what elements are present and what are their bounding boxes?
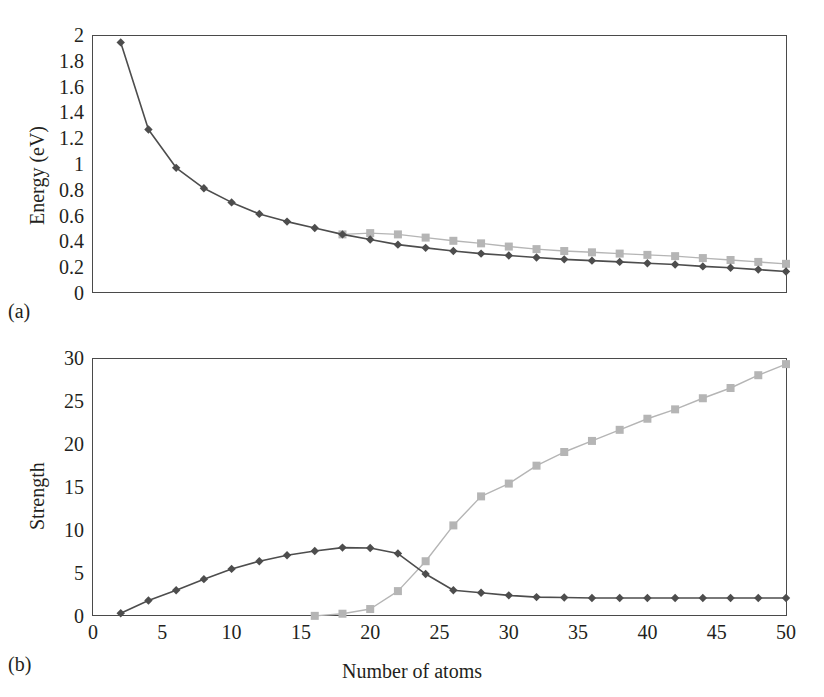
- data-point-diamond: [311, 224, 319, 232]
- data-point-diamond: [421, 244, 429, 252]
- y-axis-label-a: Energy (eV): [26, 126, 49, 225]
- data-point-diamond: [754, 594, 762, 602]
- chart-svg-b: [93, 359, 786, 615]
- data-point-diamond: [477, 249, 485, 257]
- y-tick-label: 25: [64, 391, 84, 411]
- data-point-square: [671, 252, 679, 260]
- data-point-square: [422, 557, 430, 565]
- data-point-square: [643, 251, 651, 259]
- y-axis-label-b: Strength: [26, 462, 49, 530]
- y-tick-label: 10: [64, 520, 84, 540]
- data-point-diamond: [227, 565, 235, 573]
- data-point-diamond: [615, 594, 623, 602]
- y-tick-label: 1.6: [59, 77, 84, 97]
- data-point-diamond: [449, 247, 457, 255]
- data-point-square: [588, 248, 596, 256]
- data-point-diamond: [671, 594, 679, 602]
- data-point-diamond: [394, 240, 402, 248]
- series-line-dark-diamond: [121, 548, 786, 614]
- x-tick-label: 5: [157, 622, 167, 642]
- data-point-square: [366, 605, 374, 613]
- data-point-diamond: [117, 609, 125, 617]
- panel-tag-b: (b): [8, 653, 31, 676]
- data-point-square: [754, 258, 762, 266]
- data-point-diamond: [615, 258, 623, 266]
- data-point-square: [505, 243, 513, 251]
- data-point-diamond: [643, 594, 651, 602]
- y-tick-label: 0.2: [59, 257, 84, 277]
- data-point-diamond: [699, 594, 707, 602]
- data-point-square: [394, 587, 402, 595]
- data-point-square: [505, 480, 513, 488]
- data-point-square: [422, 234, 430, 242]
- data-point-square: [616, 426, 624, 434]
- data-point-diamond: [144, 596, 152, 604]
- data-point-diamond: [560, 593, 568, 601]
- data-point-diamond: [560, 255, 568, 263]
- data-point-diamond: [200, 575, 208, 583]
- x-tick-label: 35: [568, 622, 588, 642]
- data-point-diamond: [726, 594, 734, 602]
- data-point-square: [477, 492, 485, 500]
- data-point-square: [754, 371, 762, 379]
- series-line-light-square: [315, 364, 786, 616]
- y-tick-label: 0.4: [59, 231, 84, 251]
- data-point-diamond: [782, 267, 790, 275]
- panel-b: 051015202530 Strength 051015202530354045…: [0, 330, 824, 697]
- y-tick-label: 5: [74, 563, 84, 583]
- x-tick-label: 30: [499, 622, 519, 642]
- data-point-square: [782, 260, 790, 268]
- data-point-diamond: [588, 594, 596, 602]
- y-tick-label: 2: [74, 25, 84, 45]
- plot-area-b: [92, 358, 787, 616]
- data-point-diamond: [255, 557, 263, 565]
- plot-area-a: [92, 35, 787, 293]
- data-point-square: [588, 437, 596, 445]
- data-point-diamond: [283, 551, 291, 559]
- x-tick-label: 10: [222, 622, 242, 642]
- data-point-diamond: [643, 259, 651, 267]
- y-tick-label: 0: [74, 283, 84, 303]
- x-tick-label: 40: [637, 622, 657, 642]
- data-point-diamond: [671, 260, 679, 268]
- data-point-diamond: [699, 262, 707, 270]
- data-point-square: [477, 239, 485, 247]
- chart-svg-a: [93, 36, 786, 292]
- data-point-square: [533, 245, 541, 253]
- data-point-diamond: [505, 591, 513, 599]
- y-tick-label: 15: [64, 477, 84, 497]
- data-point-square: [533, 462, 541, 470]
- data-point-square: [616, 250, 624, 258]
- x-tick-label: 15: [291, 622, 311, 642]
- x-axis-ticks-b: 05101520253035404550: [0, 622, 824, 650]
- data-point-square: [782, 360, 790, 368]
- data-point-square: [671, 405, 679, 413]
- panel-tag-a: (a): [8, 300, 30, 323]
- x-tick-label: 20: [360, 622, 380, 642]
- data-point-diamond: [366, 544, 374, 552]
- data-point-diamond: [172, 586, 180, 594]
- x-axis-label-b: Number of atoms: [342, 660, 482, 683]
- data-point-square: [449, 237, 457, 245]
- y-tick-label: 1: [74, 154, 84, 174]
- data-point-square: [699, 394, 707, 402]
- data-point-square: [699, 254, 707, 262]
- y-tick-label: 0.6: [59, 206, 84, 226]
- x-tick-label: 25: [430, 622, 450, 642]
- data-point-diamond: [726, 263, 734, 271]
- data-point-square: [394, 230, 402, 238]
- data-point-diamond: [588, 256, 596, 264]
- data-point-square: [311, 612, 319, 620]
- y-tick-label: 0.8: [59, 180, 84, 200]
- data-point-diamond: [754, 265, 762, 273]
- y-tick-label: 1.4: [59, 102, 84, 122]
- data-point-square: [560, 448, 568, 456]
- data-point-diamond: [449, 586, 457, 594]
- data-point-square: [727, 384, 735, 392]
- data-point-diamond: [477, 589, 485, 597]
- data-point-diamond: [311, 547, 319, 555]
- figure-root: 00.20.40.60.811.21.41.61.82 Energy (eV) …: [0, 0, 824, 697]
- data-point-diamond: [255, 210, 263, 218]
- y-tick-label: 1.2: [59, 128, 84, 148]
- x-tick-label: 50: [776, 622, 796, 642]
